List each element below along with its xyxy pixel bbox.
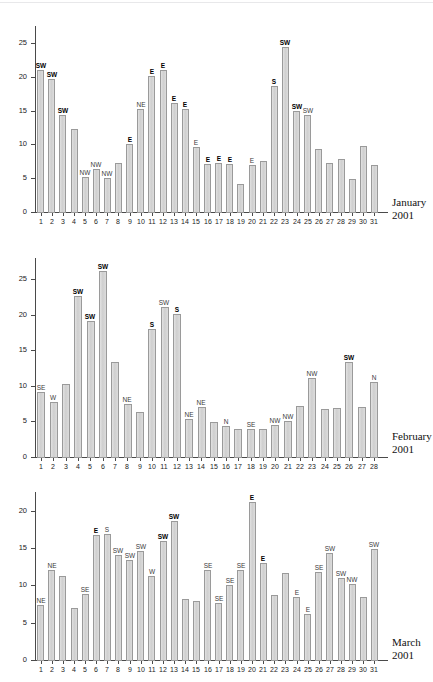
x-tick bbox=[285, 661, 286, 664]
bar bbox=[93, 535, 100, 661]
figure-page: 05101520251SW2SW3SW45NW6NW7NW89E10NE11E1… bbox=[0, 0, 433, 682]
y-tick-label: 20 bbox=[11, 507, 27, 515]
bar bbox=[249, 502, 256, 661]
bar bbox=[282, 573, 289, 661]
bar-annotation: NE bbox=[43, 562, 61, 569]
month-year: 2001 bbox=[392, 649, 421, 662]
bar bbox=[226, 585, 233, 661]
x-tick bbox=[130, 661, 131, 664]
bar bbox=[360, 597, 367, 661]
x-tick bbox=[263, 661, 264, 664]
bar bbox=[171, 521, 178, 661]
bar bbox=[193, 601, 200, 661]
x-tick bbox=[74, 661, 75, 664]
bar bbox=[215, 603, 222, 661]
bar bbox=[271, 595, 278, 661]
x-tick bbox=[352, 661, 353, 664]
x-tick bbox=[274, 661, 275, 664]
x-tick bbox=[308, 661, 309, 664]
x-tick bbox=[63, 661, 64, 664]
chart-panel-march: 051015201NE2NE345SE6E7S8SW9SW10SW11W12SW… bbox=[0, 0, 433, 682]
y-tick-march-15 bbox=[31, 548, 35, 549]
x-tick bbox=[163, 661, 164, 664]
bar bbox=[182, 599, 189, 661]
x-tick bbox=[96, 661, 97, 664]
y-tick-label: 10 bbox=[11, 581, 27, 589]
x-tick-label: 31 bbox=[367, 666, 381, 674]
x-tick bbox=[152, 661, 153, 664]
month-caption-march: March2001 bbox=[392, 636, 421, 662]
bar-annotation: SE bbox=[232, 562, 250, 569]
x-tick bbox=[363, 661, 364, 664]
x-tick bbox=[341, 661, 342, 664]
bar-annotation: SW bbox=[154, 533, 172, 540]
bar bbox=[204, 570, 211, 661]
bar bbox=[115, 555, 122, 661]
x-tick bbox=[52, 661, 53, 664]
bar-annotation: S bbox=[98, 526, 116, 533]
x-tick bbox=[230, 661, 231, 664]
y-tick-label: 5 bbox=[11, 619, 27, 627]
x-tick bbox=[41, 661, 42, 664]
bar bbox=[237, 570, 244, 661]
x-tick bbox=[297, 661, 298, 664]
x-tick bbox=[185, 661, 186, 664]
y-axis-line-march bbox=[35, 492, 36, 661]
x-tick bbox=[141, 661, 142, 664]
x-tick bbox=[107, 661, 108, 664]
y-tick-march-10 bbox=[31, 585, 35, 586]
x-tick bbox=[174, 661, 175, 664]
bar bbox=[126, 560, 133, 661]
bar-annotation: SW bbox=[321, 545, 339, 552]
x-tick bbox=[252, 661, 253, 664]
x-tick bbox=[330, 661, 331, 664]
bar bbox=[315, 572, 322, 661]
bar bbox=[37, 605, 44, 661]
bar bbox=[260, 563, 267, 661]
bar bbox=[59, 576, 66, 661]
bar-annotation: SE bbox=[76, 586, 94, 593]
x-tick bbox=[319, 661, 320, 664]
bar bbox=[48, 570, 55, 661]
x-tick bbox=[208, 661, 209, 664]
bar-annotation: SW bbox=[365, 541, 383, 548]
bar-annotation: SE bbox=[199, 562, 217, 569]
bar-annotation: SW bbox=[132, 543, 150, 550]
bar-annotation: E bbox=[288, 589, 306, 596]
bar-annotation: E bbox=[243, 494, 261, 501]
bar bbox=[338, 578, 345, 661]
x-tick bbox=[241, 661, 242, 664]
bar-annotation: SW bbox=[165, 513, 183, 520]
bar bbox=[160, 541, 167, 661]
y-tick-march-5 bbox=[31, 623, 35, 624]
bar bbox=[349, 584, 356, 661]
bar bbox=[371, 549, 378, 661]
bar bbox=[71, 608, 78, 661]
y-tick-march-0 bbox=[31, 660, 35, 661]
x-tick bbox=[118, 661, 119, 664]
y-tick-label: 0 bbox=[11, 656, 27, 664]
x-tick bbox=[85, 661, 86, 664]
x-tick bbox=[219, 661, 220, 664]
bar-annotation: W bbox=[143, 568, 161, 575]
x-tick bbox=[196, 661, 197, 664]
bar-annotation: E bbox=[254, 555, 272, 562]
bar bbox=[304, 614, 311, 661]
bar bbox=[148, 576, 155, 661]
x-tick bbox=[374, 661, 375, 664]
y-tick-label: 15 bbox=[11, 544, 27, 552]
month-name: March bbox=[392, 636, 421, 649]
bar-annotation: NW bbox=[343, 576, 361, 583]
bar bbox=[82, 594, 89, 661]
y-tick-march-20 bbox=[31, 511, 35, 512]
